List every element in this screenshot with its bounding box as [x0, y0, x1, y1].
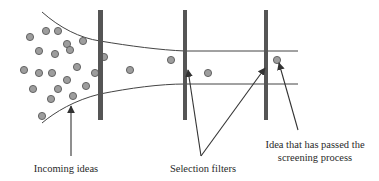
- incoming-idea-dot: [63, 76, 70, 83]
- incoming-idea-dot: [73, 63, 80, 70]
- passed-idea-dot: [273, 56, 280, 63]
- passed-idea-label-line1: Idea that has passed the: [263, 138, 367, 151]
- incoming-idea-dot: [42, 27, 49, 34]
- screened-idea-dot: [204, 69, 211, 76]
- incoming-idea-dot: [79, 37, 86, 44]
- incoming-ideas-label: Incoming ideas: [32, 162, 100, 175]
- screened-idea-dot: [167, 56, 174, 63]
- incoming-idea-dot: [54, 27, 61, 34]
- filter-3-bar: [264, 10, 268, 120]
- selection-filter-arrow-2-icon: [201, 68, 265, 156]
- selection-filters: [98, 10, 268, 120]
- passed-idea-label-line2: screening process: [263, 151, 367, 164]
- incoming-idea-dot: [48, 69, 55, 76]
- incoming-idea-dot: [91, 69, 98, 76]
- incoming-idea-dot: [66, 46, 73, 53]
- incoming-idea-dot: [38, 112, 45, 119]
- incoming-idea-dot: [35, 69, 42, 76]
- incoming-idea-dot: [29, 85, 36, 92]
- incoming-idea-dot: [20, 66, 27, 73]
- incoming-idea-dot: [35, 47, 42, 54]
- funnel-top-line: [42, 12, 298, 51]
- incoming-idea-dot: [82, 82, 89, 89]
- filter-1-bar: [98, 10, 103, 120]
- passed-idea-arrow-icon: [279, 63, 298, 130]
- incoming-idea-dot: [54, 85, 61, 92]
- screened-idea-dot: [126, 66, 133, 73]
- incoming-idea-dot: [26, 33, 33, 40]
- incoming-idea-dot: [69, 92, 76, 99]
- incoming-idea-dot: [51, 50, 58, 57]
- selection-filters-label: Selection filters: [161, 162, 245, 175]
- funnel-bottom-line: [42, 84, 298, 123]
- selection-filter-arrow-1-icon: [188, 70, 201, 156]
- filter-2-bar: [183, 10, 187, 120]
- incoming-idea-dot: [47, 95, 54, 102]
- ideas: [20, 27, 280, 119]
